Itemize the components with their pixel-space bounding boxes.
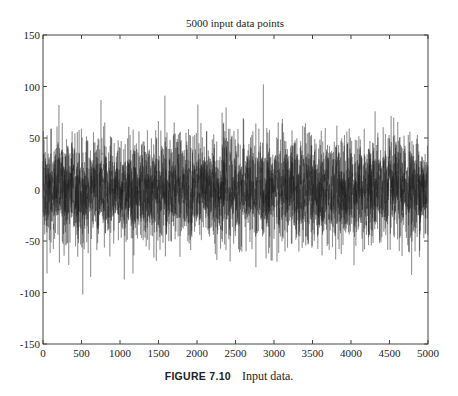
x-tick-label: 1000 [109, 347, 132, 359]
signal-trace [43, 84, 428, 294]
figure-caption: FIGURE 7.10 Input data. [0, 369, 458, 384]
y-tick-label: -100 [20, 287, 41, 299]
x-tick-label: 2500 [225, 347, 248, 359]
x-tick-label: 1500 [148, 347, 171, 359]
x-tick-label: 3000 [263, 347, 286, 359]
y-tick-label: 50 [29, 132, 41, 144]
y-tick-label: 0 [35, 184, 41, 196]
y-tick-label: 150 [24, 29, 41, 41]
x-tick-label: 3500 [302, 347, 325, 359]
y-tick-label: -150 [20, 338, 41, 350]
chart-title: 5000 input data points [186, 17, 284, 29]
caption-text: Input data. [242, 369, 293, 383]
x-tick-label: 2000 [186, 347, 209, 359]
figure-label: FIGURE 7.10 [165, 370, 231, 382]
x-tick-label: 4000 [340, 347, 363, 359]
input-data-chart: 5000 input data points 05001000150020002… [0, 0, 458, 365]
x-tick-label: 0 [40, 347, 46, 359]
x-tick-label: 5000 [417, 347, 440, 359]
x-tick-label: 4500 [379, 347, 402, 359]
y-tick-label: -50 [25, 235, 40, 247]
x-tick-label: 500 [73, 347, 90, 359]
y-tick-label: 100 [24, 81, 41, 93]
